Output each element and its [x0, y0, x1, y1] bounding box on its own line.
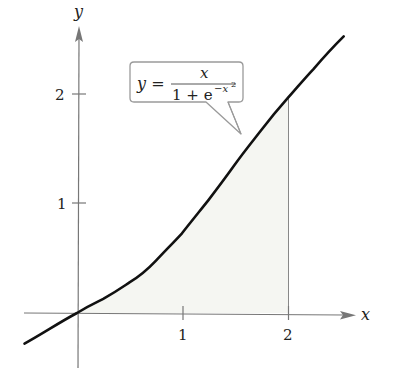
y-axis — [78, 34, 79, 368]
callout-lhs: y = — [136, 74, 165, 93]
callout-numerator: x — [200, 64, 209, 82]
x-tick-label-1: 1 — [178, 326, 188, 344]
y-tick-label-1: 1 — [57, 195, 67, 213]
callout-denominator: 1 + e — [172, 86, 213, 104]
x-tick-label-2: 2 — [283, 326, 293, 344]
callout-exponent-power: 2 — [231, 80, 236, 89]
y-axis-label: y — [73, 2, 84, 21]
function-graph: 1 2 1 2 x y y = x 1 + e −x 2 — [0, 0, 394, 384]
callout-exponent: −x — [214, 83, 228, 94]
graph-canvas: 1 2 1 2 x y y = x 1 + e −x 2 — [0, 0, 394, 384]
shaded-area — [77, 98, 288, 313]
x-axis-label: x — [361, 305, 370, 324]
y-tick-label-2: 2 — [55, 86, 65, 104]
equation-callout: y = x 1 + e −x 2 — [130, 62, 243, 134]
